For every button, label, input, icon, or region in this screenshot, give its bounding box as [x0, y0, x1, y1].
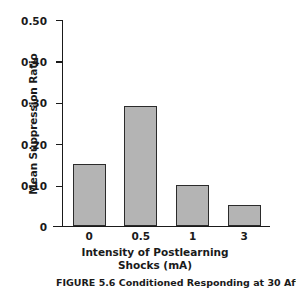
y-tick-label-020: 0.20: [21, 139, 47, 151]
y-tick-010: 0.10: [56, 186, 63, 187]
y-tick-020: 0.20: [56, 144, 63, 145]
x-axis-line: [53, 226, 270, 227]
y-tick-label-010: 0.10: [21, 180, 47, 192]
y-tick-label-040: 0.40: [21, 56, 47, 68]
y-tick-030: 0.30: [56, 103, 63, 104]
bar-slot: [63, 20, 115, 226]
y-tick-050: 0.50: [56, 20, 63, 21]
figure-caption-text: Conditioned Responding at 30 Aft: [119, 277, 296, 288]
x-tick-label-0: 0: [63, 230, 115, 242]
bar-group: [63, 20, 270, 226]
x-tick-label-3: 3: [218, 230, 270, 242]
figure-caption: FIGURE 5.6 Conditioned Responding at 30 …: [56, 277, 296, 288]
x-tick-label-1: 0.5: [115, 230, 167, 242]
x-axis-title: Intensity of Postlearning Shocks (mA): [36, 246, 274, 271]
x-axis-title-line2: Shocks (mA): [36, 259, 274, 272]
bar-category-2[interactable]: [176, 185, 209, 226]
y-tick-label-050: 0.50: [21, 15, 47, 27]
y-tick-label-030: 0.30: [21, 97, 47, 109]
figure-caption-label: FIGURE 5.6: [56, 277, 115, 288]
x-tick-label-2: 1: [167, 230, 219, 242]
bar-category-3[interactable]: [228, 205, 261, 226]
plot-area: 0.50 0.40 0.30 0.20 0.10 0: [62, 20, 270, 227]
bar-category-1[interactable]: [124, 106, 157, 225]
x-tick-labels: 0 0.5 1 3: [63, 230, 270, 242]
bar-category-0[interactable]: [73, 164, 106, 226]
bar-slot: [218, 20, 270, 226]
y-tick-040: 0.40: [56, 61, 63, 62]
bar-slot: [115, 20, 167, 226]
y-tick-label-0: 0: [40, 221, 47, 233]
bar-slot: [167, 20, 219, 226]
x-axis-title-line1: Intensity of Postlearning: [36, 246, 274, 259]
